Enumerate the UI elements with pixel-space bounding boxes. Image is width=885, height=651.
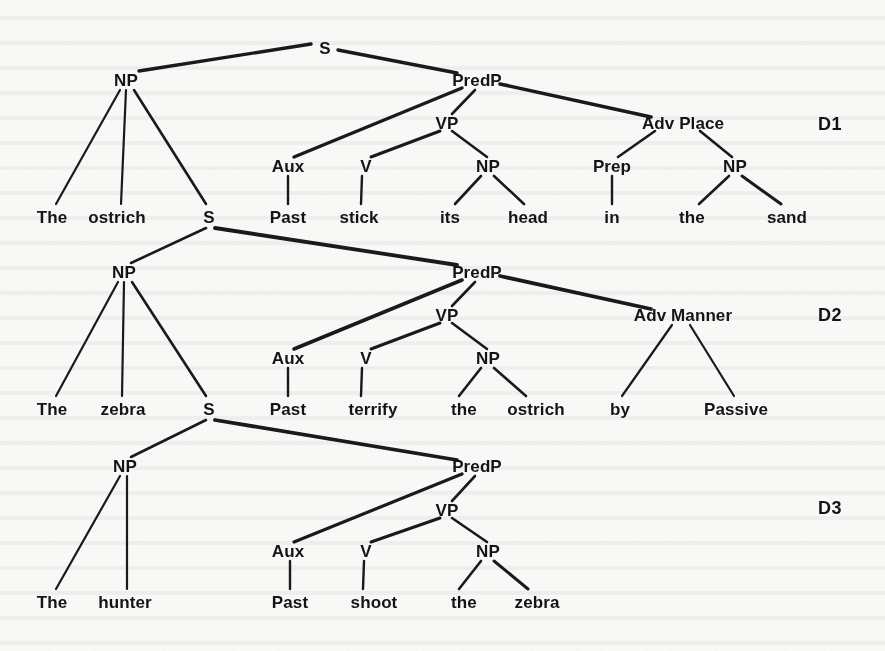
- tree-branch: [452, 323, 487, 349]
- tree-terminal-word: shoot: [351, 594, 398, 611]
- tree-terminal-word: sand: [767, 209, 807, 226]
- tree-node-label: NP: [723, 158, 747, 175]
- tree-terminal-word: terrify: [349, 401, 398, 418]
- tree-terminal-word: The: [37, 401, 68, 418]
- tree-node-label: NP: [112, 264, 136, 281]
- tree-branch: [131, 228, 206, 263]
- tree-terminal-word: stick: [339, 209, 378, 226]
- tree-node-label: V: [360, 543, 371, 560]
- tree-node-label: PredP: [452, 264, 502, 281]
- tree-branch: [455, 176, 481, 204]
- tree-node-label: Adv Place: [642, 115, 724, 132]
- tree-branch: [452, 282, 475, 306]
- tree-branch: [459, 368, 481, 396]
- tree-terminal-word: The: [37, 209, 68, 226]
- tree-node-label: V: [360, 350, 371, 367]
- tree-terminal-word: Past: [270, 209, 306, 226]
- tree-node-label: VP: [436, 502, 459, 519]
- tree-branch: [699, 176, 729, 204]
- tree-terminal-word: the: [451, 401, 477, 418]
- tree-branch: [452, 518, 487, 542]
- tree-node-label: Aux: [272, 350, 304, 367]
- tree-branch: [139, 44, 311, 71]
- tree-branch: [700, 131, 732, 157]
- tree-node-label: NP: [476, 158, 500, 175]
- tree-branch: [618, 131, 655, 157]
- tree-branch: [56, 90, 120, 204]
- tree-node-label: Aux: [272, 158, 304, 175]
- diagram-tag-d3: D3: [818, 499, 842, 517]
- scanned-page: SNPPredPVPAdv PlaceAuxVNPPrepNPTheostric…: [0, 0, 885, 651]
- tree-branch: [494, 176, 524, 204]
- tree-branch: [494, 368, 526, 396]
- tree-terminal-word: S: [203, 401, 214, 418]
- tree-branch: [371, 518, 440, 542]
- tree-branch: [452, 476, 475, 501]
- tree-node-label: S: [319, 40, 330, 57]
- tree-terminal-word: The: [37, 594, 68, 611]
- tree-terminal-word: Past: [272, 594, 308, 611]
- tree-branch: [622, 325, 672, 396]
- tree-node-label: PredP: [452, 72, 502, 89]
- tree-branch: [500, 276, 651, 309]
- tree-branch: [459, 561, 481, 589]
- tree-terminal-word: its: [440, 209, 460, 226]
- tree-terminal-word: Passive: [704, 401, 768, 418]
- tree-branch: [361, 368, 362, 396]
- diagram-tag-d1: D1: [818, 115, 842, 133]
- tree-node-label: PredP: [452, 458, 502, 475]
- tree-node-label: V: [360, 158, 371, 175]
- tree-branch: [742, 176, 781, 204]
- tree-branch: [500, 84, 651, 117]
- tree-terminal-word: zebra: [101, 401, 146, 418]
- tree-terminal-word: zebra: [515, 594, 560, 611]
- tree-terminal-word: ostrich: [507, 401, 564, 418]
- tree-node-label: NP: [113, 458, 137, 475]
- tree-node-label: Aux: [272, 543, 304, 560]
- tree-branch: [215, 420, 457, 460]
- tree-terminal-word: head: [508, 209, 548, 226]
- tree-branch: [363, 561, 364, 589]
- tree-branch: [56, 282, 118, 396]
- diagram-tag-d2: D2: [818, 306, 842, 324]
- tree-node-label: NP: [114, 72, 138, 89]
- tree-branch: [452, 131, 487, 157]
- tree-terminal-word: the: [451, 594, 477, 611]
- tree-branch: [371, 131, 440, 157]
- tree-branch: [132, 282, 206, 396]
- tree-branch: [134, 90, 206, 204]
- tree-branch: [121, 90, 126, 204]
- tree-terminal-word: Past: [270, 401, 306, 418]
- tree-branch: [122, 282, 124, 396]
- tree-branch: [215, 228, 457, 265]
- tree-branch: [56, 476, 120, 589]
- tree-branch: [494, 561, 528, 589]
- tree-node-label: VP: [436, 115, 459, 132]
- tree-terminal-word: in: [604, 209, 619, 226]
- tree-node-label: NP: [476, 543, 500, 560]
- tree-node-label: Prep: [593, 158, 631, 175]
- tree-branch: [361, 176, 362, 204]
- tree-branch: [371, 323, 440, 349]
- tree-node-label: NP: [476, 350, 500, 367]
- tree-node-label: Adv Manner: [634, 307, 732, 324]
- tree-terminal-word: hunter: [98, 594, 151, 611]
- tree-edges-layer: [0, 0, 885, 651]
- tree-terminal-word: ostrich: [88, 209, 145, 226]
- tree-terminal-word: the: [679, 209, 705, 226]
- tree-branch: [690, 325, 734, 396]
- tree-branch: [452, 90, 475, 114]
- tree-node-label: VP: [436, 307, 459, 324]
- tree-branch: [338, 50, 457, 73]
- tree-terminal-word: S: [203, 209, 214, 226]
- tree-terminal-word: by: [610, 401, 630, 418]
- tree-branch: [131, 420, 206, 457]
